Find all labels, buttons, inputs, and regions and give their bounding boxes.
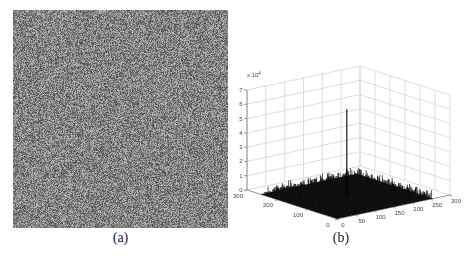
- z-tick-label: 1: [239, 173, 242, 179]
- z-axis-multiplier-base: x 10: [247, 72, 258, 78]
- z-tick-label: 0: [239, 187, 242, 193]
- x-tick-label: 250: [432, 202, 442, 208]
- x-tick-label: 300: [451, 198, 461, 204]
- z-axis-multiplier-exponent: 4: [258, 71, 261, 76]
- z-tick-label: 6: [239, 101, 242, 107]
- x-tick-label: 50: [358, 218, 365, 224]
- figure-two-panel: (a) x 104 050100150200250300010020030001…: [0, 0, 466, 265]
- surface-plot-panel: x 104 0501001502002503000100200300012345…: [233, 0, 466, 265]
- surface-plot-canvas: [233, 0, 466, 265]
- x-tick-label: 0: [341, 222, 344, 228]
- z-tick-label: 4: [239, 130, 242, 136]
- y-tick-label: 200: [263, 202, 273, 208]
- z-tick-label: 3: [239, 144, 242, 150]
- x-tick-label: 100: [376, 214, 386, 220]
- z-tick-label: 5: [239, 116, 242, 122]
- z-axis-multiplier: x 104: [247, 71, 261, 78]
- noise-image: [13, 10, 228, 228]
- z-tick-label: 2: [239, 158, 242, 164]
- x-tick-label: 150: [394, 210, 404, 216]
- y-tick-label: 300: [233, 193, 243, 199]
- y-tick-label: 0: [326, 222, 329, 228]
- z-tick-label: 7: [239, 87, 242, 93]
- caption-a: (a): [13, 230, 228, 246]
- caption-b: (b): [233, 230, 449, 246]
- x-tick-label: 200: [413, 206, 423, 212]
- y-tick-label: 100: [293, 212, 303, 218]
